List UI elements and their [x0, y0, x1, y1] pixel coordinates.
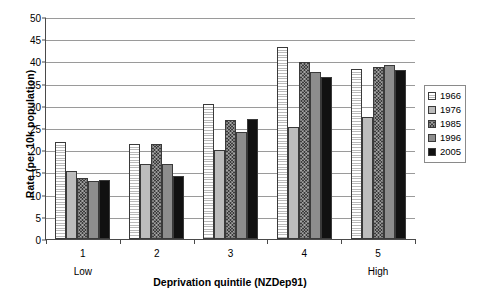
bar-2005-q2: [173, 176, 184, 239]
bar-1976-q2: [140, 164, 151, 239]
bar-1966-q1: [55, 142, 66, 239]
legend: 19661976198519962005: [424, 85, 466, 163]
plot-area: 05101520253035404550 1Low2345High: [45, 18, 415, 240]
legend-label-1966: 1966: [440, 91, 461, 101]
y-tick-label: 30: [30, 101, 41, 112]
bar-1985-q3: [225, 120, 236, 239]
bar-1985-q4: [299, 62, 310, 239]
legend-swatch-1996-icon: [428, 134, 436, 142]
y-tick-label: 25: [30, 124, 41, 135]
bar-2005-q4: [321, 77, 332, 239]
legend-label-2005: 2005: [440, 147, 461, 157]
bar-group-1: 1Low: [46, 18, 120, 239]
legend-swatch-1966-icon: [428, 92, 436, 100]
x-tick-mark: [267, 239, 268, 244]
legend-item-2005[interactable]: 2005: [428, 145, 461, 159]
legend-label-1996: 1996: [440, 133, 461, 143]
bar-1996-q1: [88, 181, 99, 239]
x-tick-label-1: 1: [46, 248, 120, 259]
legend-item-1985[interactable]: 1985: [428, 117, 461, 131]
bar-1985-q2: [151, 144, 162, 239]
bar-2005-q3: [247, 119, 258, 239]
bar-1976-q3: [214, 150, 225, 239]
x-tick-mark: [46, 239, 47, 244]
bar-group-5: 5High: [341, 18, 415, 239]
y-tick-label: 0: [35, 235, 41, 246]
bar-1976-q1: [66, 171, 77, 239]
bar-1985-q1: [77, 178, 88, 239]
y-tick-label: 5: [35, 212, 41, 223]
bar-1966-q4: [277, 47, 288, 239]
x-tick-label-3: 3: [194, 248, 268, 259]
bar-1966-q5: [351, 69, 362, 239]
y-tick-label: 35: [30, 79, 41, 90]
x-tick-mark: [415, 239, 416, 244]
y-tick-label: 45: [30, 35, 41, 46]
bar-1996-q3: [236, 132, 247, 239]
bar-1996-q2: [162, 164, 173, 239]
bar-group-4: 4: [267, 18, 341, 239]
y-tick-label: 10: [30, 190, 41, 201]
bar-chart: Rate (per 10k population) 05101520253035…: [0, 0, 483, 295]
legend-item-1966[interactable]: 1966: [428, 89, 461, 103]
legend-swatch-2005-icon: [428, 148, 436, 156]
y-tick-label: 15: [30, 168, 41, 179]
bar-group-2: 2: [120, 18, 194, 239]
bar-1996-q4: [310, 72, 321, 239]
bar-groups: 1Low2345High: [46, 18, 415, 239]
bar-1966-q3: [203, 104, 214, 239]
bar-1966-q2: [129, 144, 140, 239]
bar-1996-q5: [384, 65, 395, 239]
x-tick-label-4: 4: [267, 248, 341, 259]
legend-item-1996[interactable]: 1996: [428, 131, 461, 145]
x-tick-label-2: 2: [120, 248, 194, 259]
legend-item-1976[interactable]: 1976: [428, 103, 461, 117]
bar-1976-q5: [362, 117, 373, 239]
x-tick-label-5: 5: [341, 248, 415, 259]
legend-label-1976: 1976: [440, 105, 461, 115]
bar-group-3: 3: [194, 18, 268, 239]
bar-2005-q5: [395, 70, 406, 239]
y-tick-label: 50: [30, 13, 41, 24]
bar-1976-q4: [288, 127, 299, 239]
bar-2005-q1: [99, 180, 110, 239]
legend-label-1985: 1985: [440, 119, 461, 129]
y-tick-label: 20: [30, 146, 41, 157]
y-tick-label: 40: [30, 57, 41, 68]
legend-swatch-1985-icon: [428, 120, 436, 128]
x-tick-mark: [194, 239, 195, 244]
legend-swatch-1976-icon: [428, 106, 436, 114]
x-tick-mark: [120, 239, 121, 244]
bar-1985-q5: [373, 67, 384, 239]
x-tick-mark: [341, 239, 342, 244]
x-axis-title: Deprivation quintile (NZDep91): [45, 276, 415, 288]
